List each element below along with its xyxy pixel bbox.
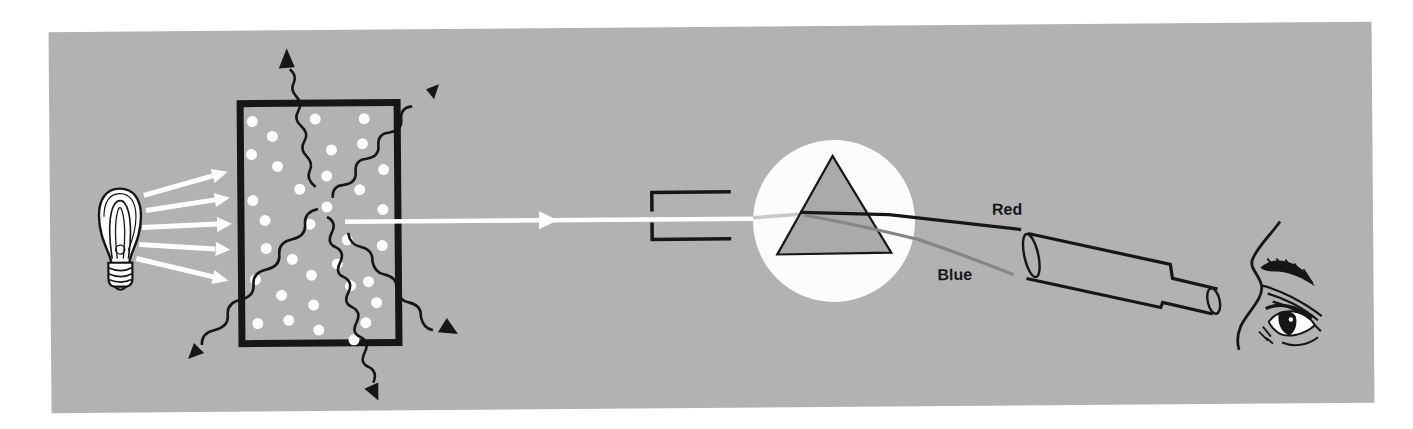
scattering-dispersion-diagram: Red Blue	[0, 0, 1413, 429]
figure-scattering-dispersion: Red Blue	[0, 0, 1413, 429]
red-label: Red	[992, 201, 1022, 218]
blue-label: Blue	[937, 266, 972, 283]
